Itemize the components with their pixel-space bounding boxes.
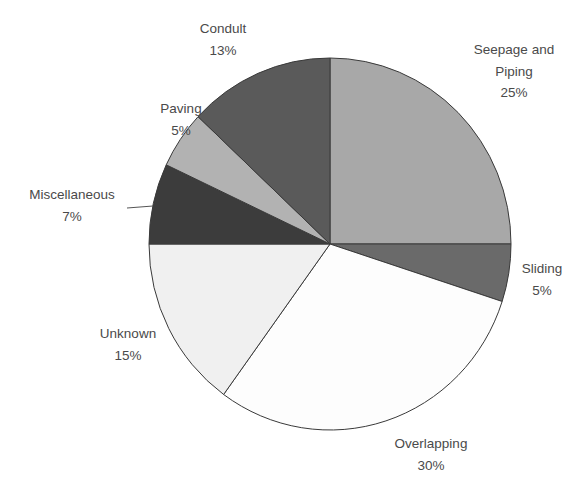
data-label-name: Miscellaneous bbox=[29, 187, 115, 202]
leader-line-miscellaneous bbox=[127, 206, 153, 208]
data-label-name: Piping bbox=[495, 64, 533, 79]
data-label-percent: 7% bbox=[62, 209, 82, 224]
data-label: Unknown15% bbox=[100, 326, 156, 363]
data-label: Overlapping30% bbox=[395, 436, 468, 473]
pie-slices bbox=[149, 58, 511, 430]
data-label: Seepage andPiping25% bbox=[474, 42, 554, 100]
data-label: Miscellaneous7% bbox=[29, 187, 115, 224]
data-label-name: Condult bbox=[200, 21, 247, 36]
pie-slice-seepage-and-piping bbox=[330, 58, 511, 244]
data-label-name: Seepage and bbox=[474, 42, 554, 57]
data-label: Sliding5% bbox=[522, 261, 563, 298]
data-label-name: Paving bbox=[160, 101, 201, 116]
data-label-percent: 30% bbox=[417, 458, 444, 473]
data-label-percent: 25% bbox=[500, 85, 527, 100]
data-label-name: Sliding bbox=[522, 261, 563, 276]
data-label-name: Overlapping bbox=[395, 436, 468, 451]
data-label-percent: 15% bbox=[114, 348, 141, 363]
data-label-percent: 5% bbox=[532, 283, 552, 298]
data-label-percent: 5% bbox=[171, 123, 191, 138]
data-label-name: Unknown bbox=[100, 326, 156, 341]
leader-lines bbox=[127, 206, 153, 208]
data-label: Condult13% bbox=[200, 21, 247, 58]
data-label-percent: 13% bbox=[209, 43, 236, 58]
pie-chart: Seepage andPiping25%Sliding5%Overlapping… bbox=[0, 0, 586, 483]
